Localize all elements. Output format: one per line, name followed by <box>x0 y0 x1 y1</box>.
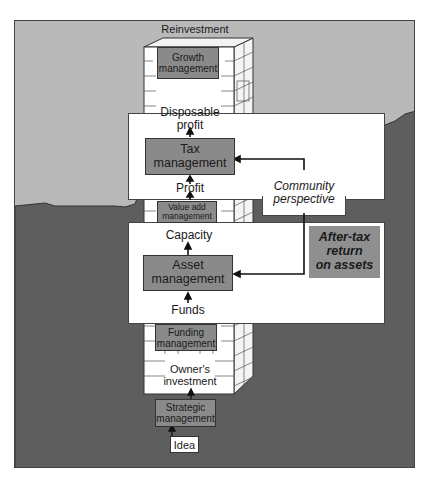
profit-label: Profit <box>155 182 225 195</box>
strategic-management-box[interactable]: Strategic management <box>155 399 216 427</box>
value-add-management-box[interactable]: Value add management <box>157 201 217 223</box>
capacity-label: Capacity <box>145 229 233 242</box>
growth-management-box[interactable]: Growth management <box>157 47 219 79</box>
tax-management-box[interactable]: Tax management <box>145 138 235 175</box>
funds-label: Funds <box>145 304 231 317</box>
reinvestment-label: Reinvestment <box>150 23 240 35</box>
idea-box[interactable]: Idea <box>170 436 199 453</box>
community-perspective-label: Community perspective <box>262 180 346 206</box>
disposable-profit-label: Disposable profit <box>145 106 235 132</box>
asset-management-box[interactable]: Asset management <box>143 255 233 291</box>
owners-investment-label: Owner's investment <box>150 363 230 387</box>
funding-management-box[interactable]: Funding management <box>155 324 217 351</box>
after-tax-return-box: After-tax return on assets <box>309 226 380 278</box>
